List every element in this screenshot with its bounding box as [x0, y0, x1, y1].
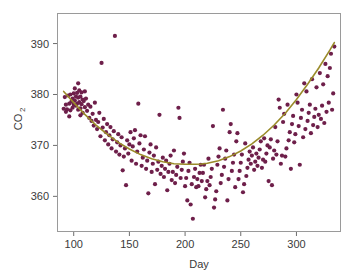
scatter-point	[329, 52, 333, 56]
scatter-point	[177, 116, 181, 120]
scatter-point	[190, 182, 194, 186]
scatter-point	[288, 130, 292, 134]
scatter-point	[324, 110, 328, 114]
scatter-point	[150, 170, 154, 174]
scatter-point	[281, 120, 285, 124]
scatter-point	[130, 159, 134, 163]
scatter-point	[290, 122, 294, 126]
scatter-point	[83, 89, 87, 93]
scatter-point	[283, 155, 287, 159]
y-tick-label: 370	[31, 139, 49, 151]
scatter-point	[279, 162, 283, 166]
scatter-point	[206, 157, 210, 161]
scatter-point	[186, 169, 190, 173]
scatter-point	[179, 176, 183, 180]
scatter-point	[243, 141, 247, 145]
scatter-point	[256, 156, 260, 160]
scatter-point	[145, 159, 149, 163]
scatter-point	[128, 130, 132, 134]
scatter-point	[262, 136, 266, 140]
scatter-point	[172, 148, 176, 152]
scatter-point	[313, 107, 317, 111]
scatter-point	[216, 155, 220, 159]
scatter-point	[236, 177, 240, 181]
scatter-point	[250, 154, 254, 158]
scatter-point	[323, 62, 327, 66]
scatter-point	[126, 151, 130, 155]
scatter-point	[125, 138, 129, 142]
scatter-point	[303, 127, 307, 131]
scatter-point	[319, 117, 323, 121]
scatter-point	[140, 164, 144, 168]
scatter-point	[252, 168, 256, 172]
scatter-point	[99, 61, 103, 65]
scatter-point	[93, 101, 97, 105]
scatter-point	[171, 170, 175, 174]
scatter-point	[289, 167, 293, 171]
scatter-point	[241, 190, 245, 194]
scatter-point	[318, 71, 322, 75]
scatter-point	[122, 155, 126, 159]
scatter-point	[112, 129, 116, 133]
scatter-point	[151, 162, 155, 166]
scatter-point	[269, 137, 273, 141]
scatter-point	[85, 109, 89, 113]
scatter-point	[317, 113, 321, 117]
scatter-point	[272, 148, 276, 152]
scatter-point	[259, 139, 263, 143]
scatter-point	[233, 185, 237, 189]
scatter-point	[215, 163, 219, 167]
scatter-point	[222, 165, 226, 169]
x-tick-label: 200	[176, 238, 194, 250]
scatter-point	[260, 166, 264, 170]
scatter-point	[326, 74, 330, 78]
scatter-point	[189, 202, 193, 206]
scatter-point	[274, 152, 278, 156]
scatter-point	[120, 135, 124, 139]
scatter-point	[180, 168, 184, 172]
scatter-point	[109, 146, 113, 150]
scatter-point	[97, 111, 101, 115]
scatter-point	[298, 163, 302, 167]
scatter-point	[330, 108, 334, 112]
scatter-point	[270, 183, 274, 187]
y-tick-label: 390	[31, 38, 49, 50]
scatter-point	[305, 119, 309, 123]
scatter-point	[214, 189, 218, 193]
scatter-point	[132, 136, 136, 140]
scatter-point	[154, 145, 158, 149]
scatter-point	[76, 81, 80, 85]
co2-vs-day-scatter-chart: 100150200250300 360370380390 Day CO 2	[0, 0, 364, 277]
scatter-point	[231, 161, 235, 165]
scatter-point	[267, 179, 271, 183]
scatter-point	[312, 115, 316, 119]
scatter-point	[108, 125, 112, 129]
scatter-point	[84, 96, 88, 100]
scatter-point	[251, 145, 255, 149]
scatter-point	[228, 130, 232, 134]
scatter-point	[224, 148, 228, 152]
scatter-point	[238, 169, 242, 173]
scatter-point	[278, 106, 282, 110]
scatter-point	[331, 91, 335, 95]
scatter-point	[196, 184, 200, 188]
scatter-point	[264, 151, 268, 155]
scatter-point	[195, 177, 199, 181]
scatter-point	[105, 122, 109, 126]
scatter-point	[304, 89, 308, 93]
scatter-point	[321, 82, 325, 86]
scatter-point	[212, 205, 216, 209]
scatter-point	[96, 120, 100, 124]
scatter-point	[299, 116, 303, 120]
scatter-point	[328, 66, 332, 70]
scatter-point	[173, 181, 177, 185]
scatter-point	[146, 191, 150, 195]
scatter-point	[311, 123, 315, 127]
scatter-point	[103, 138, 107, 142]
scatter-point	[116, 132, 120, 136]
y-tick-label: 380	[31, 88, 49, 100]
x-tick-label: 250	[232, 238, 250, 250]
scatter-point	[144, 167, 148, 171]
y-axis-title-main: CO	[12, 113, 24, 130]
scatter-point	[234, 139, 238, 143]
